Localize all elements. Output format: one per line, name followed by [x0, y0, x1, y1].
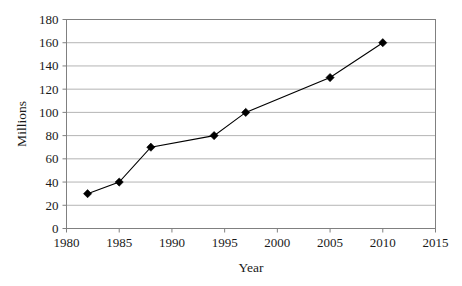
x-axis-tick-label: 1980 — [54, 235, 80, 250]
data-point-marker — [83, 190, 91, 198]
y-axis-tick-label: 140 — [39, 58, 59, 73]
x-axis-tick-label: 2000 — [264, 235, 290, 250]
data-point-marker — [379, 39, 387, 47]
y-axis-tick-label: 180 — [39, 12, 59, 27]
x-axis-title: Year — [239, 260, 264, 275]
y-axis-tick-label: 40 — [46, 175, 59, 190]
x-axis-tick-label: 2015 — [423, 235, 449, 250]
data-point-marker — [210, 132, 218, 140]
y-axis-title: Millions — [14, 101, 29, 147]
y-axis-tick-label: 100 — [39, 105, 59, 120]
data-line — [88, 43, 383, 194]
x-axis-tick-label: 1995 — [212, 235, 238, 250]
x-axis-tick-label: 1985 — [106, 235, 132, 250]
y-axis-tick-label: 20 — [46, 198, 59, 213]
data-point-marker — [242, 108, 250, 116]
x-axis-tick-label: 1990 — [159, 235, 185, 250]
chart-canvas: 0204060801001201401601801980198519901995… — [0, 0, 462, 286]
line-chart: 0204060801001201401601801980198519901995… — [0, 0, 462, 286]
data-point-marker — [326, 73, 334, 81]
x-axis-tick-label: 2010 — [370, 235, 396, 250]
y-axis-tick-label: 160 — [39, 35, 59, 50]
y-axis-tick-label: 80 — [46, 128, 59, 143]
plot-frame — [67, 20, 436, 229]
y-axis-tick-label: 60 — [46, 151, 59, 166]
y-axis-tick-label: 120 — [39, 82, 59, 97]
x-axis-tick-label: 2005 — [317, 235, 343, 250]
